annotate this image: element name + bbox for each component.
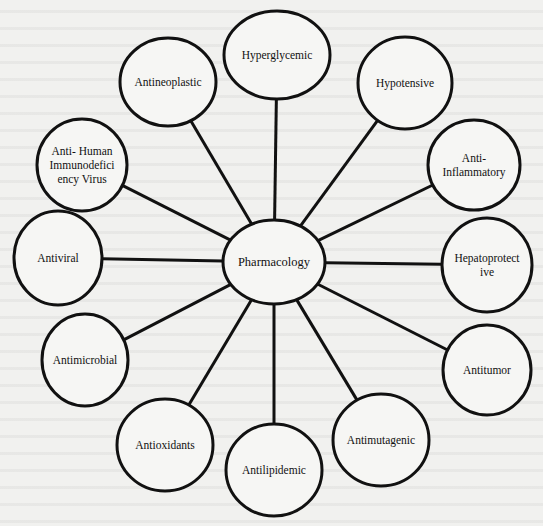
edge-antimutagenic — [297, 300, 357, 401]
node-label-antimutagenic: Antimutagenic — [347, 433, 415, 447]
edge-antiviral — [102, 259, 223, 261]
center-node-label: Pharmacology — [238, 255, 310, 269]
edge-antimicrobial — [124, 284, 231, 340]
edge-hepatoprotective — [325, 263, 442, 265]
edge-hyperglycemic — [275, 99, 277, 220]
node-label-anti-hiv: Anti- Human Immunodefici ency Virus — [49, 144, 114, 186]
edge-hypotensive — [300, 120, 377, 226]
node-label-antimicrobial: Antimicrobial — [53, 353, 118, 367]
node-label-antineoplastic: Antineoplastic — [134, 75, 201, 89]
node-label-antitumor: Antitumor — [463, 363, 511, 377]
edge-antineoplastic — [191, 121, 252, 224]
node-label-antiviral: Antiviral — [37, 251, 79, 265]
node-label-antilipidemic: Antilipidemic — [242, 463, 306, 477]
node-label-hepatoprotective: Hepatoprotect ive — [454, 251, 519, 279]
node-label-hyperglycemic: Hyperglycemic — [242, 48, 313, 62]
node-label-hypotensive: Hypotensive — [376, 76, 434, 90]
node-label-anti-inflammatory: Anti- Inflammatory — [442, 151, 505, 179]
node-label-antioxidants: Antioxidants — [135, 438, 194, 452]
edge-antitumor — [317, 284, 447, 350]
edge-antioxidants — [189, 300, 252, 405]
edge-anti-hiv — [122, 185, 230, 240]
edge-anti-inflammatory — [318, 185, 433, 241]
